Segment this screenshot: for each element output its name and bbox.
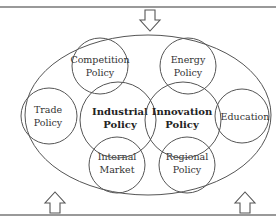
regional-label-line2: Policy: [173, 164, 202, 175]
circle-energy-policy: Energy Policy: [160, 38, 216, 94]
competition-label-line2: Policy: [86, 67, 115, 78]
circle-regional-policy: Regional Policy: [159, 137, 215, 193]
internal-market-label-line2: Market: [99, 164, 134, 175]
industrial-label-line1: Industrial: [92, 106, 148, 117]
circle-competition-policy: Competition Policy: [70, 38, 129, 94]
up-arrow-icon-right: [235, 192, 255, 213]
circle-trade-policy: Trade Policy: [21, 88, 77, 144]
internal-market-label-line1: Internal: [98, 151, 137, 162]
policy-diagram: Competition Policy Energy Policy Trade P…: [0, 0, 276, 222]
innovation-label-line2: Policy: [165, 119, 200, 130]
energy-label-line2: Policy: [174, 67, 203, 78]
energy-label-line1: Energy: [171, 54, 206, 65]
trade-label-line1: Trade: [34, 104, 63, 115]
education-label: Education: [221, 111, 270, 122]
up-arrow-icon-left: [45, 192, 65, 213]
trade-label-line2: Policy: [34, 117, 63, 128]
circle-internal-market: Internal Market: [89, 137, 145, 193]
circle-education: Education: [215, 89, 269, 143]
down-arrow-icon: [140, 10, 160, 31]
industrial-label-line2: Policy: [103, 119, 138, 130]
innovation-label-line1: Innovation: [152, 106, 213, 117]
competition-label-line1: Competition: [70, 54, 129, 65]
